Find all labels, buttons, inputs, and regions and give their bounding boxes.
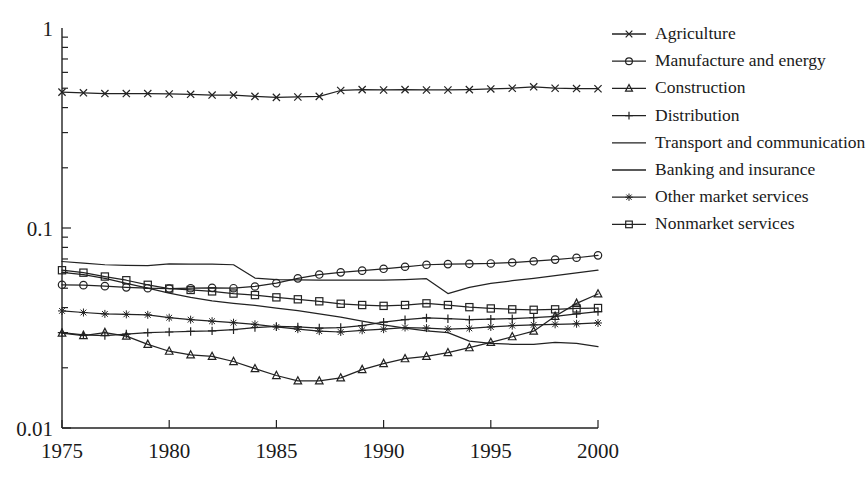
star-marker: [294, 325, 302, 333]
marker-star: [422, 324, 430, 332]
marker-star: [594, 319, 602, 327]
star-marker: [101, 310, 109, 318]
legend-item-distribution[interactable]: Distribution: [612, 105, 740, 125]
series-construction: [58, 290, 602, 384]
star-marker: [337, 328, 345, 336]
marker-star: [58, 307, 66, 315]
legend-item-other-market-services[interactable]: Other market services: [612, 186, 809, 206]
marker-star: [208, 317, 216, 325]
series-line: [62, 270, 598, 310]
marker-star: [315, 327, 323, 335]
legend-item-banking-and-insurance[interactable]: Banking and insurance: [612, 159, 816, 179]
plus-marker: [229, 326, 237, 334]
star-marker: [144, 311, 152, 319]
marker-plus: [401, 315, 409, 323]
star-marker: [165, 314, 173, 322]
x-axis-label-1975: 1975: [41, 439, 83, 463]
marker-star: [251, 320, 259, 328]
line-chart-svg: 10.10.01 197519801985199019952000 Agricu…: [0, 0, 866, 489]
x-axis-tick-labels: 197519801985199019952000: [41, 439, 619, 463]
plus-marker: [422, 314, 430, 322]
marker-star: [337, 328, 345, 336]
y-axis-tick-labels: 10.10.01: [16, 17, 53, 441]
plus-marker: [487, 315, 495, 323]
x-axis-label-1995: 1995: [470, 439, 512, 463]
star-marker: [122, 310, 130, 318]
x-axis-label-2000: 2000: [577, 439, 619, 463]
plus-marker: [625, 112, 633, 120]
marker-star: [380, 325, 388, 333]
marker-plus: [572, 310, 580, 318]
y-axis-label-1: 1: [43, 17, 54, 41]
marker-star: [358, 326, 366, 334]
legend-item-label: Other market services: [655, 186, 809, 206]
star-marker: [272, 323, 280, 331]
marker-plus: [465, 315, 473, 323]
series-line: [62, 311, 598, 332]
star-marker: [187, 316, 195, 324]
chart-figure: 10.10.01 197519801985199019952000 Agricu…: [0, 0, 866, 489]
legend-item-label: Agriculture: [655, 23, 736, 43]
marker-plus: [208, 327, 216, 335]
legend-item-transport-and-communication[interactable]: Transport and communication: [612, 132, 866, 152]
marker-star: [144, 311, 152, 319]
marker-plus: [487, 315, 495, 323]
marker-plus: [529, 314, 537, 322]
legend-item-agriculture[interactable]: Agriculture: [612, 23, 736, 43]
legend-item-label: Construction: [655, 77, 746, 97]
star-marker: [58, 307, 66, 315]
marker-star: [487, 323, 495, 331]
marker-star: [187, 316, 195, 324]
marker-star: [79, 309, 87, 317]
star-marker: [487, 323, 495, 331]
x-axis-label-1980: 1980: [148, 439, 190, 463]
legend-item-construction[interactable]: Construction: [612, 77, 746, 97]
star-marker: [465, 324, 473, 332]
star-marker: [380, 325, 388, 333]
marker-plus: [186, 327, 194, 335]
plus-marker: [401, 315, 409, 323]
plus-marker: [208, 327, 216, 335]
chart-legend: AgricultureManufacture and energyConstru…: [612, 23, 866, 233]
marker-star: [465, 324, 473, 332]
star-marker: [79, 309, 87, 317]
star-marker: [315, 327, 323, 335]
marker-plus: [229, 326, 237, 334]
marker-star: [401, 324, 409, 332]
x-axis-label-1990: 1990: [363, 439, 405, 463]
axes-group: 10.10.01 197519801985199019952000: [16, 17, 619, 463]
star-marker: [573, 320, 581, 328]
star-marker: [401, 324, 409, 332]
series-other-market-services: [58, 307, 602, 336]
marker-star: [530, 321, 538, 329]
marker-star: [122, 310, 130, 318]
marker-plus: [422, 314, 430, 322]
marker-plus: [625, 112, 633, 120]
marker-star: [444, 325, 452, 333]
plus-marker: [444, 314, 452, 322]
plus-marker: [186, 327, 194, 335]
y-axis-label-0.1: 0.1: [27, 217, 53, 241]
plus-marker: [529, 314, 537, 322]
marker-star: [625, 194, 632, 201]
legend-item-label: Transport and communication: [655, 132, 866, 152]
star-marker: [230, 319, 238, 327]
series-group: [58, 83, 602, 384]
plus-marker: [572, 310, 580, 318]
legend-item-label: Manufacture and energy: [655, 50, 826, 70]
marker-star: [101, 310, 109, 318]
marker-star: [294, 325, 302, 333]
legend-item-label: Banking and insurance: [655, 159, 816, 179]
marker-star: [165, 314, 173, 322]
legend-item-manufacture-and-energy[interactable]: Manufacture and energy: [612, 50, 826, 70]
series-transport-and-communication: [62, 262, 598, 294]
marker-star: [573, 320, 581, 328]
plus-marker: [144, 328, 152, 336]
legend-item-nonmarket-services[interactable]: Nonmarket services: [612, 213, 795, 233]
legend-item-label: Distribution: [655, 105, 740, 125]
star-marker: [594, 319, 602, 327]
series-line: [62, 294, 598, 381]
star-marker: [625, 194, 632, 201]
y-axis-label-0.01: 0.01: [16, 417, 53, 441]
y-axis-ticks: [62, 37, 71, 428]
